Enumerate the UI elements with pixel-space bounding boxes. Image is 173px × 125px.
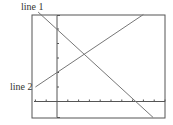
line-2 bbox=[35, 15, 143, 88]
x-axis bbox=[34, 100, 165, 102]
calculator-graph bbox=[0, 0, 173, 125]
graph-frame bbox=[32, 15, 165, 118]
